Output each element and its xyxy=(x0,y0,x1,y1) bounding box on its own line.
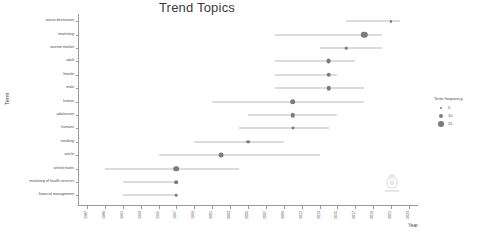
term-span-line xyxy=(239,128,328,129)
x-axis-tick-label: 2017 xyxy=(354,211,358,219)
x-axis-tick xyxy=(159,206,160,209)
term-median-dot[interactable] xyxy=(345,47,348,50)
legend-dot-swatch xyxy=(434,114,448,118)
x-axis-tick-label: 2005 xyxy=(246,211,250,219)
x-axis-tick-label: 1991 xyxy=(121,211,125,219)
legend-item-label: 15 xyxy=(448,122,452,126)
x-axis-tick xyxy=(373,206,374,209)
x-axis-tick xyxy=(194,206,195,209)
legend-item[interactable]: 10 xyxy=(434,112,486,120)
x-axis-tick xyxy=(302,206,303,209)
x-axis-tick xyxy=(337,206,338,209)
term-median-dot[interactable] xyxy=(291,127,294,130)
x-axis-tick-label: 1993 xyxy=(139,211,143,219)
legend-item-label: 5 xyxy=(448,106,450,110)
legend: Term frequency 51015 xyxy=(434,96,486,128)
term-span-line xyxy=(320,48,383,49)
y-axis-tick-label: article xyxy=(64,153,74,157)
term-median-dot[interactable] xyxy=(219,153,224,158)
x-axis-tick-label: 2015 xyxy=(336,211,340,219)
y-axis-tick-label: male xyxy=(66,86,74,90)
x-axis-tick-label: 2003 xyxy=(228,211,232,219)
x-axis-tick xyxy=(87,206,88,209)
term-span-line xyxy=(275,61,356,62)
x-axis-tick-label: 1987 xyxy=(85,211,89,219)
legend-item[interactable]: 5 xyxy=(434,104,486,112)
x-axis-tick xyxy=(141,206,142,209)
x-axis-tick-label: 2023 xyxy=(407,211,411,219)
term-median-dot[interactable] xyxy=(290,113,294,117)
y-axis-tick-label: human xyxy=(63,100,74,104)
x-axis-tick-label: 1995 xyxy=(157,211,161,219)
page-title: Trend Topics xyxy=(0,0,440,15)
y-axis-tick-label: adolescent xyxy=(57,113,74,117)
x-axis-tick-label: 2019 xyxy=(371,211,375,219)
legend-dot-swatch xyxy=(434,121,448,127)
term-median-dot[interactable] xyxy=(175,180,179,184)
y-axis-tick-label: tourist destination xyxy=(46,20,74,24)
y-axis-title: Term xyxy=(4,93,10,105)
x-axis-tick xyxy=(355,206,356,209)
x-axis-tick-label: 2013 xyxy=(318,211,322,219)
y-axis-line xyxy=(78,14,79,206)
faint-circular-logo-icon xyxy=(380,172,404,196)
x-axis-tick xyxy=(212,206,213,209)
x-axis-tick-label: 1999 xyxy=(193,211,197,219)
y-axis-tick-label: financial management xyxy=(39,193,74,197)
term-span-line xyxy=(159,155,320,156)
term-median-dot[interactable] xyxy=(361,32,367,38)
term-median-dot[interactable] xyxy=(175,194,178,197)
legend-dot-swatch xyxy=(434,107,448,110)
x-axis-tick-label: 2007 xyxy=(264,211,268,219)
term-median-dot[interactable] xyxy=(246,140,250,144)
x-axis-tick xyxy=(123,206,124,209)
x-axis-title: Year xyxy=(78,222,418,228)
x-axis-tick-label: 2021 xyxy=(389,211,393,219)
term-median-dot[interactable] xyxy=(326,73,330,77)
legend-entries: 51015 xyxy=(434,104,486,128)
term-span-line xyxy=(105,168,239,169)
x-axis-tick-label: 1997 xyxy=(175,211,179,219)
x-axis-tick-label: 2009 xyxy=(282,211,286,219)
y-axis-tick-label: humans xyxy=(61,127,74,131)
term-span-line xyxy=(123,195,177,196)
y-axis-tick-label: adult xyxy=(66,60,74,64)
legend-item-label: 10 xyxy=(448,114,452,118)
x-axis-tick-label: 1989 xyxy=(103,211,107,219)
x-axis-tick-label: 2011 xyxy=(300,211,304,219)
y-axis-tick-label: united states xyxy=(54,167,74,171)
plot-panel: tourist destinationmarketingtourism mark… xyxy=(78,14,418,206)
x-axis-tick xyxy=(230,206,231,209)
term-span-line xyxy=(275,88,364,89)
y-axis-tick-label: marketing xyxy=(58,33,74,37)
y-axis-tick-label: smoking xyxy=(61,140,74,144)
term-median-dot[interactable] xyxy=(326,86,330,90)
x-axis-tick-label: 2001 xyxy=(210,211,214,219)
term-span-line xyxy=(212,101,364,102)
term-span-line xyxy=(123,181,177,182)
y-axis-tick-label: marketing of health services xyxy=(29,180,74,184)
x-axis-tick xyxy=(284,206,285,209)
term-span-line xyxy=(194,141,283,142)
x-axis-tick xyxy=(391,206,392,209)
x-axis-tick xyxy=(409,206,410,209)
x-axis-tick xyxy=(320,206,321,209)
x-axis-line xyxy=(78,205,418,206)
x-axis-tick xyxy=(105,206,106,209)
term-median-dot[interactable] xyxy=(390,20,392,22)
term-median-dot[interactable] xyxy=(290,99,296,105)
y-axis-tick-label: female xyxy=(63,73,74,77)
x-axis-tick xyxy=(176,206,177,209)
legend-title: Term frequency xyxy=(434,96,486,101)
x-axis-tick xyxy=(266,206,267,209)
legend-item[interactable]: 15 xyxy=(434,120,486,128)
term-median-dot[interactable] xyxy=(174,166,180,172)
y-axis-tick-label: tourism market xyxy=(50,46,74,50)
trend-topics-chart: Trend Topics Term Year tourist destinati… xyxy=(0,0,486,237)
plot-area: tourist destinationmarketingtourism mark… xyxy=(78,14,418,206)
term-median-dot[interactable] xyxy=(326,59,331,64)
x-axis-tick xyxy=(248,206,249,209)
